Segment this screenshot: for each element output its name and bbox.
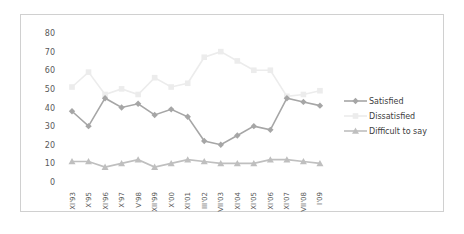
y-tick-label: 30 bbox=[45, 122, 55, 131]
square-marker-icon bbox=[201, 54, 207, 60]
square-marker-icon bbox=[268, 67, 274, 73]
square-legend-icon bbox=[353, 113, 359, 119]
y-tick-label: 60 bbox=[45, 66, 55, 75]
x-tick-label: XII'99 bbox=[151, 192, 159, 212]
series-line bbox=[72, 52, 320, 97]
series-dissatisfied bbox=[69, 49, 323, 99]
x-tick-label: XI'07 bbox=[283, 192, 291, 210]
square-marker-icon bbox=[69, 84, 75, 90]
line-chart: 01020304050607080 XI'93X'95XI'96X'97V'98… bbox=[0, 0, 464, 234]
x-tick-label: XI'01 bbox=[184, 192, 192, 210]
diamond-marker-icon bbox=[317, 102, 323, 108]
diamond-marker-icon bbox=[218, 142, 224, 148]
x-tick-label: XI'96 bbox=[102, 191, 110, 209]
diamond-marker-icon bbox=[234, 132, 240, 138]
x-axis: XI'93X'95XI'96X'97V'98XII'99X'00XI'01III… bbox=[69, 191, 325, 211]
diamond-marker-icon bbox=[300, 99, 306, 105]
y-tick-label: 20 bbox=[45, 141, 55, 150]
series-satisfied bbox=[69, 95, 323, 148]
x-tick-label: VII'03 bbox=[217, 192, 225, 212]
series-difficult-to-say bbox=[69, 156, 324, 170]
x-tick-label: X'00 bbox=[168, 192, 176, 208]
y-axis: 01020304050607080 bbox=[45, 29, 55, 187]
x-tick-label: XI'04 bbox=[234, 191, 242, 209]
series-line bbox=[72, 98, 320, 145]
diamond-marker-icon bbox=[118, 104, 124, 110]
square-marker-icon bbox=[317, 88, 323, 94]
legend-item-satisfied: Satisfied bbox=[344, 97, 404, 106]
y-tick-label: 0 bbox=[50, 178, 55, 187]
legend-label: Dissatisfied bbox=[369, 112, 415, 121]
legend-label: Satisfied bbox=[369, 97, 404, 106]
legend-item-dissatisfied: Dissatisfied bbox=[344, 112, 415, 121]
y-tick-label: 50 bbox=[45, 85, 55, 94]
square-marker-icon bbox=[135, 92, 141, 98]
square-marker-icon bbox=[218, 49, 224, 55]
x-tick-label: XI'05 bbox=[250, 192, 258, 210]
diamond-legend-icon bbox=[352, 98, 358, 104]
x-tick-label: XI'06 bbox=[267, 191, 275, 209]
diamond-marker-icon bbox=[168, 106, 174, 112]
y-tick-label: 40 bbox=[45, 104, 55, 113]
diamond-marker-icon bbox=[267, 127, 273, 133]
y-tick-label: 10 bbox=[45, 159, 55, 168]
square-marker-icon bbox=[86, 69, 92, 75]
x-tick-label: III'02 bbox=[201, 192, 209, 209]
series-line bbox=[72, 160, 320, 167]
x-tick-label: I'09 bbox=[316, 192, 324, 205]
y-tick-label: 80 bbox=[45, 29, 55, 38]
square-marker-icon bbox=[251, 67, 257, 73]
y-tick-label: 70 bbox=[45, 48, 55, 57]
diamond-marker-icon bbox=[251, 123, 257, 129]
square-marker-icon bbox=[168, 84, 174, 90]
x-tick-label: X'95 bbox=[85, 192, 93, 208]
square-marker-icon bbox=[235, 58, 241, 64]
legend: SatisfiedDissatisfiedDifficult to say bbox=[344, 97, 427, 136]
square-marker-icon bbox=[185, 80, 191, 86]
legend-label: Difficult to say bbox=[369, 127, 427, 136]
square-marker-icon bbox=[119, 86, 125, 92]
legend-item-difficult-to-say: Difficult to say bbox=[344, 127, 427, 136]
square-marker-icon bbox=[301, 92, 307, 98]
square-marker-icon bbox=[152, 75, 158, 81]
x-tick-label: VII'08 bbox=[300, 192, 308, 212]
triangle-marker-icon bbox=[135, 156, 142, 162]
x-tick-label: X'97 bbox=[118, 192, 126, 208]
x-tick-label: XI'93 bbox=[69, 192, 77, 210]
plot-area bbox=[69, 49, 324, 170]
x-tick-label: V'98 bbox=[135, 192, 143, 208]
